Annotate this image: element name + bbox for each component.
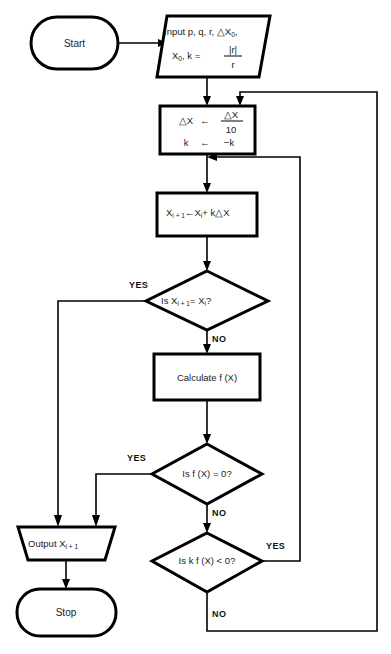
connector-output-to-stop: [62, 560, 70, 589]
increment-arrow: ←: [185, 207, 195, 218]
input-line2-b: , k =: [182, 50, 201, 61]
connector-start-to-input: [118, 39, 167, 47]
input-line1: Input p, q, r, △X0,: [164, 26, 237, 38]
delta-row1-numerator: △X: [224, 109, 239, 120]
sign-yes-label: YES: [266, 541, 285, 551]
input-fraction-numerator: |r|: [229, 44, 237, 55]
node-decision-converged[interactable]: Is Xi + 1= Xi? YES NO: [129, 271, 268, 344]
flowchart-canvas: Start Input p, q, r, △X0, X0, k = |r| r …: [0, 0, 391, 654]
node-delta-step[interactable]: △X ← △X 10 k ← −k: [160, 106, 255, 154]
calculate-label: Calculate f (X): [177, 372, 237, 383]
sign-no-label: NO: [212, 609, 226, 619]
connector-increment-to-decision-converged: [203, 236, 211, 271]
flowchart-svg: Start Input p, q, r, △X0, X0, k = |r| r …: [0, 0, 391, 654]
converged-c: ?: [206, 295, 211, 306]
output-label: Output X: [28, 538, 66, 549]
node-decision-sign[interactable]: Is k f (X) < 0? YES NO: [152, 533, 285, 619]
zero-yes-label: YES: [127, 453, 146, 463]
node-calculate[interactable]: Calculate f (X): [154, 354, 260, 400]
node-input[interactable]: Input p, q, r, △X0, X0, k = |r| r: [157, 16, 270, 77]
zero-no-label: NO: [212, 508, 226, 518]
node-decision-zero[interactable]: Is f (X) = 0? YES NO: [127, 444, 262, 518]
stop-label: Stop: [56, 607, 77, 618]
delta-row2-left: k: [184, 137, 189, 148]
input-fraction-denominator: r: [231, 59, 234, 70]
connector-zero-yes-to-output: [92, 474, 160, 527]
connector-calculate-to-decision-zero: [203, 400, 211, 444]
connector-delta-to-increment: [203, 154, 211, 193]
converged-no-label: NO: [212, 334, 226, 344]
converged-a-sub: i + 1: [177, 300, 190, 307]
increment-a-sub: i + 1: [172, 212, 185, 219]
connector-zero-no-to-decision-sign: [203, 504, 211, 533]
delta-row2-arrow: ←: [200, 137, 210, 148]
node-output[interactable]: Output Xi + 1: [18, 527, 115, 560]
delta-row1-left: △X: [179, 115, 194, 126]
converged-b: = X: [190, 295, 205, 306]
delta-row1-arrow: ←: [200, 115, 210, 126]
decision-sign-label: Is k f (X) < 0?: [179, 555, 236, 566]
converged-a: Is X: [161, 295, 178, 306]
input-line1-text: Input p, q, r, △X: [164, 26, 232, 37]
delta-row2-right: −k: [224, 137, 235, 148]
delta-row1-denominator: 10: [226, 124, 237, 135]
connector-input-to-delta: [203, 77, 211, 106]
decision-zero-label: Is f (X) = 0?: [182, 468, 231, 479]
node-start[interactable]: Start: [31, 17, 118, 69]
output-label-sub: i + 1: [66, 543, 79, 550]
node-increment[interactable]: Xi + 1←Xi+ k△X: [157, 193, 257, 236]
start-label: Start: [64, 38, 85, 49]
input-line2: X0, k =: [172, 50, 201, 62]
node-stop[interactable]: Stop: [17, 589, 116, 636]
input-line1-tail: ,: [235, 26, 238, 37]
increment-c: + k△X: [202, 207, 230, 218]
converged-yes-label: YES: [129, 280, 148, 290]
connector-converged-yes-to-output: [54, 301, 176, 527]
connector-converged-no-to-calculate: [203, 330, 211, 354]
